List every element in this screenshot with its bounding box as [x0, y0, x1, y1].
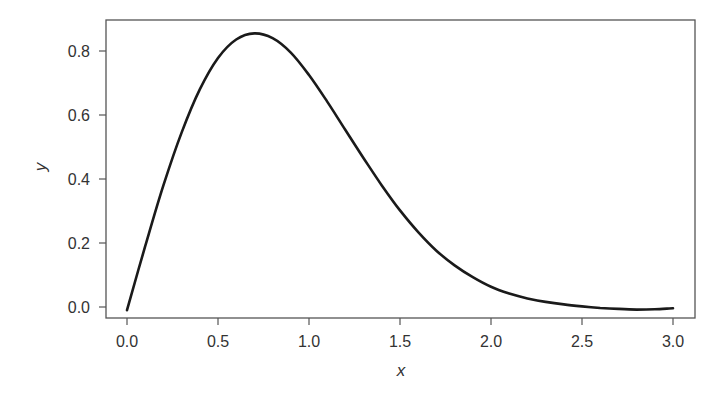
chart-background [0, 0, 727, 400]
y-tick-label: 0.8 [68, 43, 90, 60]
x-tick-label: 0.5 [207, 333, 229, 350]
line-chart: 0.00.51.01.52.02.53.0 0.00.20.40.60.8 x … [0, 0, 727, 400]
x-tick-label: 1.0 [298, 333, 320, 350]
x-tick-label: 0.0 [116, 333, 138, 350]
x-axis-title: x [396, 361, 406, 380]
y-tick-label: 0.0 [68, 299, 90, 316]
x-tick-label: 2.0 [480, 333, 502, 350]
y-axis-title: y [31, 161, 50, 172]
y-tick-label: 0.6 [68, 107, 90, 124]
x-tick-label: 2.5 [571, 333, 593, 350]
y-tick-label: 0.2 [68, 235, 90, 252]
y-tick-label: 0.4 [68, 171, 90, 188]
x-tick-label: 3.0 [662, 333, 684, 350]
x-tick-label: 1.5 [389, 333, 411, 350]
